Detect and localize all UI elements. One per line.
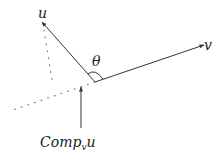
perpendicular-dotted — [44, 30, 52, 80]
label-u: u — [38, 5, 47, 21]
label-component: Compvu — [40, 134, 96, 152]
vector-v-arrow — [95, 45, 204, 82]
label-v: v — [204, 37, 212, 53]
label-theta: θ — [92, 53, 101, 69]
label-component-suffix: u — [86, 134, 95, 150]
projection-line-dotted — [10, 82, 95, 111]
vector-projection-diagram: u v θ Compvu — [0, 0, 223, 154]
vector-u-arrow — [42, 22, 95, 82]
angle-arc — [88, 72, 103, 79]
label-component-main: Comp — [40, 134, 81, 150]
